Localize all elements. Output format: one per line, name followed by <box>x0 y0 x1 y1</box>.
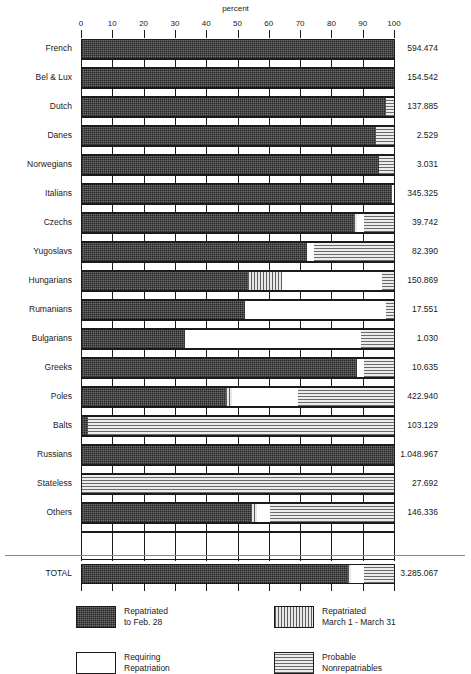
bottom-tick-mark-70 <box>300 584 301 591</box>
grid-strip <box>81 349 395 358</box>
row-value-total: 3.285.067 <box>358 568 438 578</box>
x-tick-label-50: 50 <box>226 19 250 28</box>
row-label-others: Others <box>0 507 72 517</box>
row-value-others: 146.336 <box>358 507 438 517</box>
x-tick-mark-20 <box>144 30 145 38</box>
row-value-russians: 1.048.967 <box>358 449 438 459</box>
bar-french[interactable] <box>81 39 395 59</box>
grid-strip <box>81 233 395 242</box>
bar-segment-requiring <box>232 388 298 406</box>
grid-strip <box>81 88 395 97</box>
bar-italians[interactable] <box>81 184 395 204</box>
grid-strip <box>81 320 395 329</box>
row-label-hungarians: Hungarians <box>0 275 72 285</box>
legend-swatch-2 <box>76 652 116 674</box>
bar-others[interactable] <box>81 503 395 523</box>
row-label-norwegians: Norwegians <box>0 159 72 169</box>
bar-segment-repatriated_feb <box>82 504 251 522</box>
bar-rumanians[interactable] <box>81 300 395 320</box>
x-tick-label-10: 10 <box>100 19 124 28</box>
row-value-french: 594.474 <box>358 43 438 53</box>
row-value-bel-lux: 154.542 <box>358 72 438 82</box>
row-value-czechs: 39.742 <box>358 217 438 227</box>
grid-strip <box>81 204 395 213</box>
grid-line <box>81 533 82 561</box>
x-tick-label-0: 0 <box>69 19 93 28</box>
bar-danes[interactable] <box>81 126 395 146</box>
bar-segment-repatriated_feb <box>82 243 307 261</box>
legend-label-line2: to Feb. 28 <box>124 617 168 628</box>
grid-line <box>238 533 239 561</box>
bar-segment-repatriated_feb <box>82 388 226 406</box>
bar-czechs[interactable] <box>81 213 395 233</box>
bar-dutch[interactable] <box>81 97 395 117</box>
x-tick-mark-90 <box>363 30 364 38</box>
bar-bel-lux[interactable] <box>81 68 395 88</box>
grid-line <box>112 533 113 561</box>
grid-strip <box>81 175 395 184</box>
row-value-bulgarians: 1.030 <box>358 333 438 343</box>
grid-strip <box>81 59 395 68</box>
grid-line <box>300 533 301 561</box>
bar-balts[interactable] <box>81 416 395 436</box>
row-label-yugoslavs: Yugoslavs <box>0 246 72 256</box>
bottom-tick-mark-20 <box>144 584 145 591</box>
grid-strip <box>81 407 395 416</box>
x-tick-mark-80 <box>331 30 332 38</box>
row-value-balts: 103.129 <box>358 420 438 430</box>
bar-hungarians[interactable] <box>81 271 395 291</box>
grid-strip <box>81 494 395 503</box>
bar-russians[interactable] <box>81 445 395 465</box>
bar-greeks[interactable] <box>81 358 395 378</box>
bar-segment-repatriated_feb <box>82 40 395 58</box>
row-value-yugoslavs: 82.390 <box>358 246 438 256</box>
bar-yugoslavs[interactable] <box>81 242 395 262</box>
bottom-tick-mark-50 <box>238 584 239 591</box>
legend-label-2: RequiringRepatriation <box>124 652 170 674</box>
x-tick-label-40: 40 <box>194 19 218 28</box>
bar-bulgarians[interactable] <box>81 329 395 349</box>
row-label-greeks: Greeks <box>0 362 72 372</box>
grid-line <box>144 533 145 561</box>
row-label-russians: Russians <box>0 449 72 459</box>
bottom-tick-mark-30 <box>175 584 176 591</box>
grid-strip <box>81 378 395 387</box>
section-divider-rule <box>5 555 465 556</box>
row-label-total: TOTAL <box>0 568 72 578</box>
row-label-stateless: Stateless <box>0 478 72 488</box>
row-label-dutch: Dutch <box>0 101 72 111</box>
bottom-tick-mark-90 <box>363 584 364 591</box>
row-label-poles: Poles <box>0 391 72 401</box>
x-tick-label-20: 20 <box>132 19 156 28</box>
legend-label-line1: Requiring <box>124 652 170 663</box>
row-label-bulgarians: Bulgarians <box>0 333 72 343</box>
bottom-tick-mark-80 <box>331 584 332 591</box>
legend-label-0: Repatriatedto Feb. 28 <box>124 606 168 628</box>
bar-segment-repatriated_feb <box>82 330 185 348</box>
bar-segment-requiring <box>257 504 270 522</box>
legend-label-line1: Repatriated <box>124 606 168 617</box>
legend-label-line2: March 1 - March 31 <box>322 617 396 628</box>
x-tick-mark-100 <box>394 30 395 38</box>
bar-norwegians[interactable] <box>81 155 395 175</box>
bar-stateless[interactable] <box>81 474 395 494</box>
grid-strip <box>81 146 395 155</box>
bottom-tick-mark-40 <box>206 584 207 591</box>
row-label-czechs: Czechs <box>0 217 72 227</box>
bar-total[interactable] <box>81 564 395 584</box>
x-tick-label-60: 60 <box>257 19 281 28</box>
legend-swatch-1 <box>274 606 314 628</box>
bar-segment-repatriated_feb <box>82 301 245 319</box>
bar-poles[interactable] <box>81 387 395 407</box>
x-tick-label-100: 100 <box>382 19 406 28</box>
row-value-stateless: 27.692 <box>358 478 438 488</box>
grid-line <box>394 533 395 561</box>
bottom-tick-mark-100 <box>394 584 395 591</box>
legend-label-line2: Repatriation <box>124 663 170 674</box>
x-tick-mark-50 <box>238 30 239 38</box>
x-tick-mark-70 <box>300 30 301 38</box>
grid-strip <box>81 117 395 126</box>
grid-strip <box>81 465 395 474</box>
grid-line <box>269 533 270 561</box>
